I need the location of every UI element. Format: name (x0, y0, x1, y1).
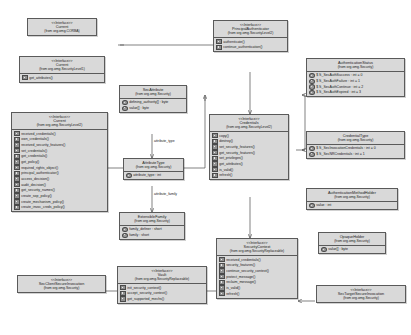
member-label: $ S_SecAuthContinue : int = 2 (316, 85, 363, 89)
class-package: (from org.omg.Security) (320, 239, 384, 243)
operation-icon (14, 199, 20, 204)
class-package: (from org.omg.CORBA) (29, 29, 95, 33)
operation-icon (14, 131, 20, 136)
class-header: ExtensibleFamily (from org.omg.Security) (120, 213, 184, 225)
class-extensiblefamily[interactable]: ExtensibleFamily (from org.omg.Security)… (119, 212, 185, 240)
class-header: <<Interface>> Current (from org.omg.Secu… (20, 57, 104, 73)
member-label: defining_authority[] : byte (129, 100, 168, 104)
class-attributes: defining_authority[] : byte value[] : by… (120, 98, 186, 112)
class-current-securitylevel2[interactable]: <<Interface>> Current (from org.omg.Secu… (11, 112, 108, 212)
class-header: SecAttribute (from org.omg.Security) (120, 86, 186, 98)
member-label: value : int (316, 203, 331, 207)
member-label: $ S_SecAuthSuccess : int = 0 (316, 73, 362, 77)
attribute-icon (122, 106, 128, 111)
attribute-icon (309, 203, 315, 208)
operation-icon (212, 144, 218, 149)
member-label: value[] : byte (328, 247, 348, 251)
class-member: get_supported_mechs() (119, 296, 205, 302)
member-label: get_supported_mechs() (127, 297, 164, 301)
class-package: (from org.omg.SecurityLevel1) (21, 67, 103, 71)
member-label: create_mechanism_policy() (21, 200, 64, 204)
attribute-icon (309, 84, 315, 89)
operation-icon (120, 296, 126, 301)
operation-icon (14, 193, 20, 198)
class-attributes: value : int (307, 201, 397, 210)
class-package: (from org.omg.Security) (308, 138, 403, 142)
class-operations: received_credentials() security_features… (217, 255, 297, 298)
member-label: get_security_names() (21, 188, 55, 192)
class-header: <<Interface>> SecTargetSecureInvocation … (317, 286, 405, 302)
operation-icon (14, 176, 20, 181)
member-label: audit_decision() (21, 183, 46, 187)
member-label: is_valid() (226, 286, 240, 290)
member-label: reclaim_message() (226, 280, 256, 284)
member-label: principal_authenticator() (21, 171, 59, 175)
operation-icon (14, 205, 20, 210)
class-secattribute[interactable]: SecAttribute (from org.omg.Security) def… (119, 85, 187, 113)
class-package: (from org.omg.Security) (121, 219, 183, 223)
class-attributes: attribute_type : int (124, 171, 183, 180)
class-header: AuthenticationStatus (from org.omg.Secur… (307, 59, 404, 71)
class-header: AttributeType (from org.omg.Security) (124, 159, 183, 171)
member-label: get_attributes() (219, 162, 243, 166)
class-member: continue_authentication() (215, 45, 286, 51)
operation-icon (219, 263, 225, 268)
class-header: <<Interface>> Current (from org.omg.Secu… (12, 113, 107, 129)
class-attributes: family_definer : short family : short (120, 225, 184, 239)
operation-icon (14, 154, 20, 159)
class-credentialtype[interactable]: CredentialType (from org.omg.Security) $… (306, 131, 405, 159)
uml-diagram-canvas: <<Interface>> Current (from org.omg.CORB… (0, 0, 411, 335)
member-label: continue_authentication() (223, 45, 262, 49)
member-label: own_credentials() (21, 137, 49, 141)
operation-icon (219, 280, 225, 285)
class-member: $ S_SecNRCredentials : int = 1 (308, 151, 403, 157)
class-vault[interactable]: <<Interface>> Vault (from org.omg.Securi… (117, 266, 207, 304)
class-sectargetsecureinvocation[interactable]: <<Interface>> SecTargetSecureInvocation … (316, 285, 406, 303)
class-header: <<Interface>> PrincipalAuthenticator (fr… (214, 21, 287, 37)
attribute-icon (309, 79, 315, 84)
class-current-corba[interactable]: <<Interface>> Current (from org.omg.CORB… (27, 18, 97, 36)
member-label: family_definer : short (129, 227, 162, 231)
class-package: (from org.omg.Security) (308, 195, 396, 199)
class-operations: copy() destroy() set_security_features()… (210, 131, 288, 179)
class-authenticationstatus[interactable]: AuthenticationStatus (from org.omg.Secur… (306, 58, 405, 97)
class-securitycontext[interactable]: <<Interface>> SecurityContext (from org.… (216, 238, 298, 299)
member-label: authenticate() (223, 40, 244, 44)
class-package: (from org.omg.SecurityLevel2) (215, 31, 286, 35)
operation-icon (14, 142, 20, 147)
class-package: (from org.omg.Security) (125, 165, 182, 169)
class-opaqueholder[interactable]: OpaqueHolder (from org.omg.Security) val… (318, 232, 386, 254)
operation-icon (212, 167, 218, 172)
operation-icon (219, 291, 225, 296)
operation-icon (120, 285, 126, 290)
member-label: security_features() (226, 263, 255, 267)
class-member: value : int (308, 203, 396, 209)
member-label: create_sop_policy() (21, 194, 52, 198)
class-principalauthenticator[interactable]: <<Interface>> PrincipalAuthenticator (fr… (213, 20, 288, 52)
attribute-icon (321, 247, 327, 252)
operation-icon (219, 274, 225, 279)
class-header: <<Interface>> Current (from org.omg.CORB… (28, 19, 96, 35)
member-label: set_credentials() (21, 149, 47, 153)
attribute-icon (309, 152, 315, 157)
operation-icon (212, 161, 218, 166)
member-label: access_decision() (21, 177, 49, 181)
edge-label-attribute-type: attribute_type (154, 139, 175, 143)
member-label: $ S_SecInvocationCredentials : int = 0 (316, 146, 375, 150)
class-credentials[interactable]: <<Interface>> Credentials (from org.omg.… (209, 114, 289, 180)
class-package: (from org.omg.SecurityReplaceable) (119, 277, 205, 281)
member-label: received_security_features() (21, 143, 65, 147)
class-operations: get_attributes() (20, 73, 104, 82)
class-header: <<Interface>> Credentials (from org.omg.… (210, 115, 288, 131)
class-header: AuthenticationMethodHolder (from org.omg… (307, 189, 397, 201)
member-label: refresh() (219, 173, 232, 177)
class-header: <<Interface>> SecurityContext (from org.… (217, 239, 297, 255)
operation-icon (120, 291, 126, 296)
class-authenticationmethodholder[interactable]: AuthenticationMethodHolder (from org.omg… (306, 188, 398, 210)
class-secclientsecureinvocation[interactable]: <<Interface>> SecClientSecureInvocation … (17, 275, 106, 293)
attribute-icon (309, 90, 315, 95)
operation-icon (212, 173, 218, 178)
class-attributetype[interactable]: AttributeType (from org.omg.Security) at… (123, 158, 184, 180)
class-current-securitylevel1[interactable]: <<Interface>> Current (from org.omg.Secu… (19, 56, 105, 83)
class-package: (from org.omg.SecurityReplaceable) (218, 249, 296, 253)
